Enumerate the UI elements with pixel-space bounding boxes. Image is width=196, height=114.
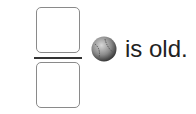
numerator-input-box[interactable]: [36, 7, 80, 53]
baseball-icon: [91, 36, 117, 62]
fraction-bar: [34, 57, 82, 59]
denominator-input-box[interactable]: [36, 62, 80, 108]
sentence-text: is old.: [125, 36, 188, 62]
